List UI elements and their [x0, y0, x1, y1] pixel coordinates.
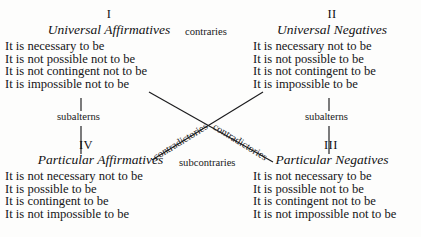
proposition-item: It is not impossible to be [5, 208, 225, 221]
quadrant-title-iv: Particular Affirmatives [0, 152, 201, 167]
relation-label-subalterns-left: subalterns [57, 111, 100, 122]
quadrant-title-ii: Universal Negatives [246, 22, 418, 37]
proposition-list-iii: It is not necessary to be It is possible… [253, 170, 421, 220]
quadrant-numeral-iii: III [324, 139, 421, 152]
quadrant-numeral-iv: IV [79, 139, 225, 152]
proposition-item: It is impossible to be [253, 78, 421, 91]
proposition-item: It is impossible not to be [5, 78, 225, 91]
relation-label-contraries: contraries [185, 26, 227, 37]
proposition-item: It is contingent to be [5, 195, 225, 208]
proposition-list-iv: It is not necessary not to be It is poss… [5, 170, 225, 220]
quadrant-particular-negatives: III Particular Negatives It is not neces… [246, 139, 421, 220]
relation-label-subalterns-right: subalterns [305, 111, 348, 122]
proposition-item: It is necessary not to be [253, 40, 421, 53]
quadrant-universal-affirmatives: I Universal Affirmatives It is necessary… [0, 8, 225, 90]
proposition-list-ii: It is necessary not to be It is not poss… [253, 40, 421, 90]
proposition-item: It is not necessary to be [253, 170, 421, 183]
relation-label-subcontraries: subcontraries [179, 157, 235, 168]
proposition-item: It is contingent not to be [253, 195, 421, 208]
quadrant-universal-negatives: II Universal Negatives It is necessary n… [246, 8, 421, 90]
proposition-list-i: It is necessary to be It is not possible… [5, 40, 225, 90]
proposition-item: It is not impossible not to be [253, 208, 421, 221]
proposition-item: It is necessary to be [5, 40, 225, 53]
quadrant-numeral-i: I [0, 8, 218, 21]
square-of-opposition-figure: I Universal Affirmatives It is necessary… [0, 0, 421, 237]
proposition-item: It is not contingent not to be [5, 65, 225, 78]
quadrant-numeral-ii: II [246, 8, 418, 21]
proposition-item: It is not contingent to be [253, 65, 421, 78]
quadrant-particular-affirmatives: IV Particular Affirmatives It is not nec… [0, 139, 225, 220]
quadrant-title-iii: Particular Negatives [246, 152, 418, 167]
proposition-item: It is not necessary not to be [5, 170, 225, 183]
